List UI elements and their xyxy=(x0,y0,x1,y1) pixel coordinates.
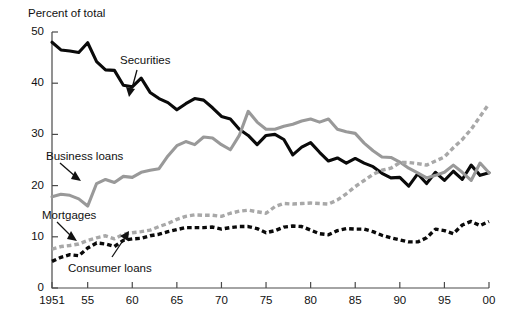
y-tick-label: 40 xyxy=(31,76,44,88)
series-label-mortgages: Mortgages xyxy=(42,209,97,221)
x-tick-label: 65 xyxy=(170,294,183,306)
securities-line xyxy=(52,42,489,186)
y-tick-label: 10 xyxy=(31,230,44,242)
business-loans-arrowhead xyxy=(71,171,81,181)
x-tick-label: 75 xyxy=(260,294,273,306)
x-tick-label: 00 xyxy=(483,294,496,306)
x-tick-label: 95 xyxy=(438,294,451,306)
chart-container: 01020304050195155606570758085909500 Perc… xyxy=(0,0,508,325)
x-tick-label: 55 xyxy=(81,294,94,306)
mortgages-arrowhead xyxy=(67,231,77,241)
x-tick-label: 90 xyxy=(393,294,406,306)
x-tick-label: 60 xyxy=(126,294,139,306)
y-axis-title: Percent of total xyxy=(28,7,105,19)
x-tick-label: 70 xyxy=(215,294,228,306)
series-label-consumer-loans: Consumer loans xyxy=(68,262,152,274)
y-tick-label: 0 xyxy=(38,281,44,293)
line-chart: 01020304050195155606570758085909500 Perc… xyxy=(0,0,508,325)
y-tick-label: 50 xyxy=(31,25,44,37)
x-tick-label: 80 xyxy=(304,294,317,306)
securities-arrowhead xyxy=(126,87,135,97)
consumer-loans-line xyxy=(52,221,489,261)
y-tick-label: 20 xyxy=(31,179,44,191)
chart-annotations-layer xyxy=(57,70,137,257)
y-tick-label: 30 xyxy=(31,127,44,139)
series-label-securities: Securities xyxy=(120,54,171,66)
x-tick-label: 85 xyxy=(349,294,362,306)
x-tick-label: 1951 xyxy=(39,294,65,306)
series-label-business-loans: Business loans xyxy=(46,150,124,162)
